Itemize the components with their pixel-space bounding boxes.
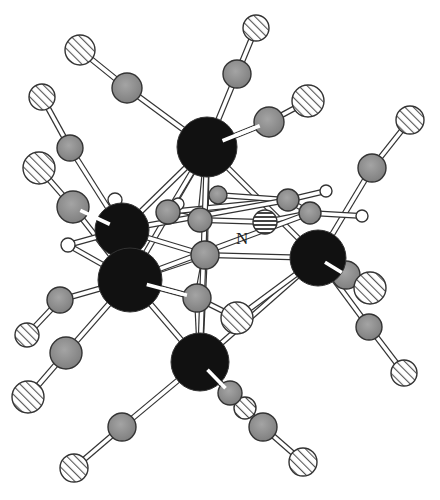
carbon-atom xyxy=(50,337,82,369)
oxygen-atom xyxy=(391,360,417,386)
bonds xyxy=(27,28,410,468)
carbon-atom xyxy=(112,73,142,103)
oxygen-atom xyxy=(243,15,269,41)
carbon-atom xyxy=(108,413,136,441)
carbon-atom xyxy=(191,241,219,269)
oxygen-atom xyxy=(221,302,253,334)
oxygen-atom xyxy=(292,85,324,117)
carbon-atom xyxy=(57,191,89,223)
carbon-atom xyxy=(358,154,386,182)
oxygen-atom xyxy=(60,454,88,482)
carbon-atom xyxy=(223,60,251,88)
carbon-atom xyxy=(183,284,211,312)
carbon-atom xyxy=(299,202,321,224)
carbon-atom xyxy=(47,287,73,313)
carbon-atom xyxy=(209,186,227,204)
carbon-atom xyxy=(277,189,299,211)
carbon-atom xyxy=(249,413,277,441)
carbon-atom xyxy=(156,200,180,224)
carbon-atom xyxy=(356,314,382,340)
hydrogen-atom xyxy=(356,210,368,222)
carbon-atom xyxy=(57,135,83,161)
molecule-diagram: N xyxy=(0,0,440,500)
oxygen-atom xyxy=(396,106,424,134)
oxygen-atom xyxy=(23,152,55,184)
metal-atom xyxy=(98,248,162,312)
hydrogen-atom xyxy=(61,238,75,252)
oxygen-atom xyxy=(15,323,39,347)
oxygen-atom xyxy=(354,272,386,304)
nitrogen-label: N xyxy=(236,229,248,248)
oxygen-atom xyxy=(29,84,55,110)
oxygen-atom xyxy=(289,448,317,476)
molecule-svg: N xyxy=(0,0,440,500)
atoms xyxy=(12,15,424,482)
oxygen-atom xyxy=(12,381,44,413)
oxygen-atom xyxy=(65,35,95,65)
carbon-atom xyxy=(254,107,284,137)
nitrogen-atom xyxy=(253,210,277,234)
metal-atom xyxy=(177,117,237,177)
hydrogen-atom xyxy=(320,185,332,197)
metal-atom xyxy=(290,230,346,286)
carbon-atom xyxy=(188,208,212,232)
